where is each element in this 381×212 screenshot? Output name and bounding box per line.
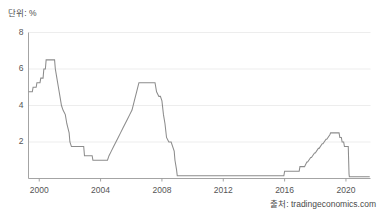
data-series: [29, 60, 370, 177]
y-tick-label-2: 2: [19, 136, 24, 146]
y-tick-label-4: 4: [19, 100, 24, 110]
x-tick-label-2020: 2020: [337, 185, 356, 195]
source-attribution: 출처: tradingeconomics.com: [270, 197, 376, 209]
x-tick-label-2012: 2012: [214, 185, 233, 195]
gridlines: [29, 33, 371, 143]
x-tick-label-2016: 2016: [275, 185, 294, 195]
y-tick-label-8: 8: [19, 27, 24, 37]
line-chart-plot: 2468 200020042008201220162020: [0, 0, 381, 212]
x-tick-label-2008: 2008: [152, 185, 171, 195]
x-tick-label-2004: 2004: [91, 185, 110, 195]
x-tick-label-2000: 2000: [30, 185, 49, 195]
y-axis-tick-labels: 2468: [19, 27, 24, 147]
x-axis-tick-labels: 200020042008201220162020: [30, 179, 356, 195]
y-tick-label-6: 6: [19, 63, 24, 73]
series-line-0: [29, 60, 370, 177]
chart-container: 단위: % 2468 200020042008201220162020 출처: …: [0, 0, 381, 212]
